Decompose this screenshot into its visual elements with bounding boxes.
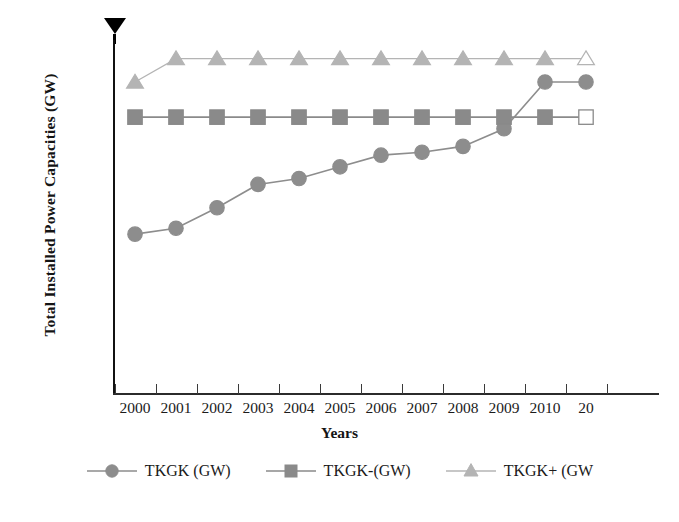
- cursor-pointer-icon: [104, 18, 126, 34]
- data-point-marker: [128, 110, 142, 124]
- y-axis-title: Total Installed Power Capacities (GW): [41, 25, 59, 385]
- data-point-marker: [415, 145, 429, 159]
- data-point-marker: [455, 51, 472, 65]
- data-point-marker: [374, 110, 388, 124]
- data-point-marker: [210, 201, 224, 215]
- legend-marker-triangle-icon: [445, 462, 497, 480]
- series-line: [135, 82, 586, 234]
- series-circle: [128, 75, 593, 242]
- legend-label: TKGK-(GW): [324, 462, 411, 480]
- data-point-marker: [496, 51, 513, 65]
- data-point-marker: [169, 221, 183, 235]
- legend-item-square[interactable]: TKGK-(GW): [265, 462, 411, 480]
- data-point-marker: [579, 75, 593, 89]
- data-point-marker: [332, 51, 349, 65]
- data-point-marker: [578, 51, 595, 65]
- data-point-marker: [538, 110, 552, 124]
- x-axis-title: Years: [0, 424, 679, 442]
- series-line: [135, 59, 586, 82]
- data-point-marker: [333, 160, 347, 174]
- data-point-marker: [209, 51, 226, 65]
- data-point-marker: [414, 51, 431, 65]
- data-point-marker: [456, 110, 470, 124]
- data-point-marker: [497, 110, 511, 124]
- legend-label: TKGK+ (GW: [504, 462, 593, 480]
- data-point-marker: [537, 51, 554, 65]
- data-point-marker: [169, 110, 183, 124]
- data-point-marker: [128, 227, 142, 241]
- data-point-marker: [292, 110, 306, 124]
- legend-marker-square-icon: [265, 462, 317, 480]
- x-axis-tick-label: 20: [556, 399, 616, 417]
- data-point-marker: [292, 171, 306, 185]
- chart-legend: TKGK (GW)TKGK-(GW)TKGK+ (GW: [0, 462, 679, 480]
- data-point-marker: [415, 110, 429, 124]
- data-series-layer: [113, 36, 661, 395]
- chart-page: Total Installed Power Capacities (GW) Ye…: [0, 0, 679, 522]
- data-point-marker: [579, 110, 593, 124]
- data-point-marker: [127, 74, 144, 88]
- legend-label: TKGK (GW): [145, 462, 231, 480]
- data-point-marker: [291, 51, 308, 65]
- data-point-marker: [538, 75, 552, 89]
- data-point-marker: [373, 51, 390, 65]
- legend-item-circle[interactable]: TKGK (GW): [86, 462, 231, 480]
- data-point-marker: [251, 177, 265, 191]
- data-point-marker: [333, 110, 347, 124]
- legend-item-triangle[interactable]: TKGK+ (GW: [445, 462, 593, 480]
- data-point-marker: [210, 110, 224, 124]
- legend-marker-circle-icon: [86, 462, 138, 480]
- data-point-marker: [374, 148, 388, 162]
- data-point-marker: [168, 51, 185, 65]
- data-point-marker: [251, 110, 265, 124]
- data-point-marker: [456, 139, 470, 153]
- series-triangle: [127, 51, 595, 88]
- series-square: [128, 110, 593, 124]
- data-point-marker: [250, 51, 267, 65]
